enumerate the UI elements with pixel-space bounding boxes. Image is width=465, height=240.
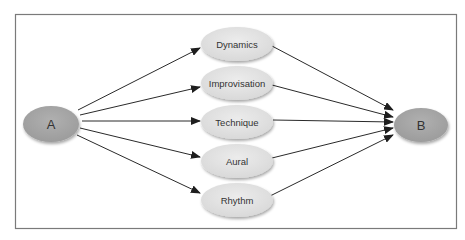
- node-b: B: [394, 108, 448, 142]
- node-rhythm: Rhythm: [201, 183, 273, 217]
- node-technique: Technique: [201, 105, 273, 139]
- node-improvisation: Improvisation: [201, 66, 273, 100]
- node-rhythm-label: Rhythm: [221, 195, 254, 206]
- node-aural-label: Aural: [226, 156, 248, 167]
- node-b-label: B: [417, 118, 426, 133]
- node-dynamics: Dynamics: [201, 27, 273, 61]
- flow-diagram: A Dynamics Improvisation Technique Aural…: [0, 0, 465, 240]
- node-dynamics-label: Dynamics: [216, 39, 258, 50]
- node-improvisation-label: Improvisation: [209, 78, 266, 89]
- node-aural: Aural: [201, 144, 273, 178]
- node-a: A: [23, 106, 79, 142]
- node-a-label: A: [47, 117, 56, 132]
- node-technique-label: Technique: [215, 117, 258, 128]
